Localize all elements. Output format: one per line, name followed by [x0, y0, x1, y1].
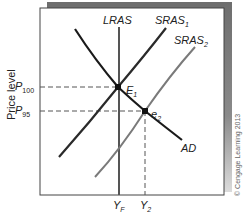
y-axis-title: Price level: [5, 69, 17, 120]
p100-label: P100: [15, 80, 34, 94]
sras1-label: SRAS1: [155, 14, 189, 28]
sras2-label: SRAS2: [174, 34, 208, 48]
point-e1-marker: [115, 84, 121, 90]
y2-label: Y2: [140, 199, 151, 213]
ad-label: AD: [180, 142, 196, 154]
frame-right-shadow: [224, 2, 232, 192]
copyright-credit: © Cengage Learning 2013: [234, 114, 242, 196]
yf-label: YF: [113, 199, 125, 213]
lras-label: LRAS: [103, 14, 132, 26]
as-ad-diagram: LRAS SRAS1 SRAS2 AD E1 e2 P100 P95 YF Y2…: [0, 0, 248, 224]
point-e2-marker: [142, 108, 148, 114]
p95-label: P95: [15, 104, 30, 118]
